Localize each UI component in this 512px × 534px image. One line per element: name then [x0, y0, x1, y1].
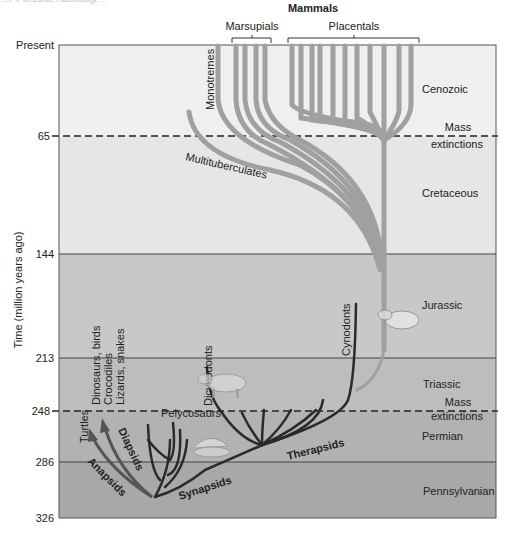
tick-286: 286	[36, 456, 54, 468]
extinction-248-line1: Mass	[445, 396, 472, 408]
tick-present: Present	[16, 39, 54, 51]
label-jurassic: Jurassic	[422, 299, 463, 311]
label-cenozoic: Cenozoic	[422, 83, 468, 95]
tick-213: 213	[36, 352, 54, 364]
label-dinosaurs-birds: Dinosaurs, birds	[90, 325, 102, 405]
label-cretaceous: Cretaceous	[422, 187, 479, 199]
tick-248: 248	[32, 405, 50, 417]
label-lizards-snakes: Lizards, snakes	[114, 328, 126, 405]
header-brackets	[232, 35, 419, 43]
extinction-65-line1: Mass	[445, 121, 472, 133]
label-crocodiles: Crocodiles	[102, 353, 114, 405]
marsupials-label: Marsupials	[225, 20, 279, 32]
extinction-65-line2: extinctions	[431, 138, 483, 150]
label-permian: Permian	[422, 430, 463, 442]
placentals-label: Placentals	[329, 20, 380, 32]
evolution-diagram: Present 65 144 213 248 286 326 Time (mil…	[0, 0, 512, 534]
label-pelycosaurs: Pelycosaurs	[161, 407, 221, 419]
label-triassic: Triassic	[423, 378, 461, 390]
extinction-248-line2: extinctions	[431, 410, 483, 422]
tick-144: 144	[36, 248, 54, 260]
tick-326: 326	[36, 512, 54, 524]
label-pennsylvanian: Pennsylvanian	[423, 485, 495, 497]
tick-65: 65	[38, 130, 50, 142]
label-monotremes: Monotremes	[204, 48, 216, 110]
y-axis-label: Time (million years ago)	[12, 232, 24, 349]
label-turtles: Turtles	[78, 409, 90, 443]
mammals-title: Mammals	[288, 2, 338, 14]
label-cynodonts: Cynodonts	[340, 303, 352, 356]
